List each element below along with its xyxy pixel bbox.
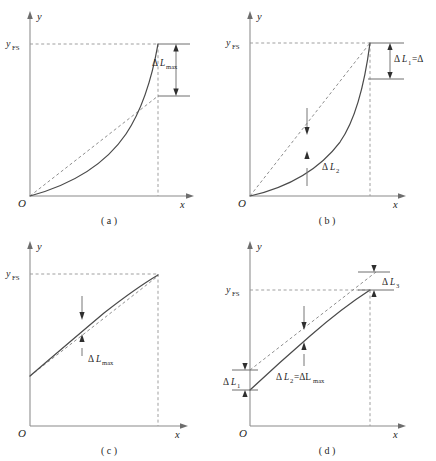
delta-l-2-suffix: =ΔL bbox=[294, 372, 311, 382]
origin-label: O bbox=[18, 197, 26, 209]
y-axis-arrowhead bbox=[247, 11, 253, 19]
dim-arrow-down bbox=[173, 89, 178, 97]
x-axis-arrowhead bbox=[398, 423, 406, 429]
delta-l-1-delta: Δ bbox=[394, 54, 400, 64]
figure-root: y x O y FS Δ L max ( a ) bbox=[0, 0, 436, 461]
delta-l-1-var: L bbox=[230, 377, 236, 387]
y-axis-arrowhead bbox=[27, 241, 33, 249]
panel-caption: ( c ) bbox=[101, 445, 117, 457]
x-axis-arrowhead bbox=[186, 193, 194, 199]
delta-l-2-delta: Δ bbox=[322, 162, 328, 172]
delta-l-3-var: L bbox=[389, 277, 395, 287]
delta-l-max-delta: Δ bbox=[88, 354, 94, 364]
delta-l-max-var: L bbox=[95, 354, 101, 364]
x-axis-label: x bbox=[392, 429, 398, 440]
yfs-label-sub: FS bbox=[12, 274, 20, 281]
yfs-label-base: y bbox=[225, 284, 231, 295]
delta-l-2-var: L bbox=[329, 162, 335, 172]
dim-arrow-up bbox=[79, 334, 84, 342]
dim1-arrow-down bbox=[242, 390, 247, 397]
dim3-arrow-down bbox=[371, 265, 376, 272]
dim1-arrow-up bbox=[242, 363, 247, 370]
origin-label: O bbox=[239, 427, 247, 439]
panel-a: y x O y FS Δ L max ( a ) bbox=[0, 0, 218, 230]
x-axis-arrowhead bbox=[180, 423, 188, 429]
x-axis-arrowhead bbox=[398, 193, 406, 199]
delta-l-max-sub: max bbox=[166, 63, 178, 70]
delta-l-1-sub: 1 bbox=[237, 382, 240, 389]
panel-d: y x O y FS Δ L 1 Δ L bbox=[218, 230, 436, 461]
y-axis-label: y bbox=[256, 241, 262, 252]
yfs-label-base: y bbox=[5, 268, 11, 279]
panel-caption: ( b ) bbox=[319, 215, 336, 227]
dim1-arrow-up bbox=[387, 43, 392, 50]
dim3-arrow-up bbox=[371, 290, 376, 297]
dim2-arrow-down bbox=[301, 322, 306, 330]
delta-l-1-var: L bbox=[401, 54, 407, 64]
delta-l-3-delta: Δ bbox=[382, 277, 388, 287]
yfs-label-base: y bbox=[225, 37, 231, 48]
y-axis-arrowhead bbox=[27, 11, 33, 19]
yfs-label-sub: FS bbox=[232, 43, 240, 50]
x-axis-label: x bbox=[179, 199, 185, 210]
yfs-label-sub: FS bbox=[12, 44, 20, 51]
panel-c: y x O y FS Δ L max ( c ) bbox=[0, 230, 218, 461]
origin-label: O bbox=[238, 197, 246, 209]
delta-l-1-delta: Δ bbox=[223, 377, 229, 387]
delta-l-1-sub: 1 bbox=[408, 59, 411, 66]
dim2-arrow-up bbox=[304, 151, 309, 159]
delta-l-2-sub2: max bbox=[313, 377, 325, 384]
yfs-label-sub: FS bbox=[232, 290, 240, 297]
delta-l-2-sub: 2 bbox=[336, 167, 339, 174]
reference-line bbox=[250, 272, 376, 370]
panel-caption: ( d ) bbox=[319, 445, 336, 457]
delta-l-max-delta: Δ bbox=[152, 58, 158, 68]
delta-l-3-sub: 3 bbox=[396, 282, 400, 289]
dim2-arrow-down bbox=[304, 127, 309, 135]
delta-l-max-var: L bbox=[159, 58, 165, 68]
delta-l-1-suffix: =Δ bbox=[412, 54, 423, 64]
panel-caption: ( a ) bbox=[101, 215, 117, 227]
dim1-arrow-down bbox=[387, 72, 392, 79]
y-axis-label: y bbox=[36, 241, 42, 252]
origin-label: O bbox=[18, 427, 26, 439]
delta-l-2-var: L bbox=[283, 372, 289, 382]
y-axis-label: y bbox=[256, 11, 262, 22]
measured-curve bbox=[30, 44, 158, 196]
y-axis-arrowhead bbox=[247, 241, 253, 249]
delta-l-max-sub: max bbox=[102, 359, 114, 366]
x-axis-label: x bbox=[174, 429, 180, 440]
delta-l-2-sub: 2 bbox=[290, 377, 293, 384]
yfs-label-base: y bbox=[5, 38, 11, 49]
delta-l-2-delta: Δ bbox=[276, 372, 282, 382]
x-axis-label: x bbox=[392, 199, 398, 210]
dim-arrow-up bbox=[173, 44, 178, 52]
y-axis-label: y bbox=[36, 11, 42, 22]
panel-b: y x O y FS Δ L 1 =Δ bbox=[218, 0, 436, 230]
dim-arrow-down bbox=[79, 312, 84, 320]
